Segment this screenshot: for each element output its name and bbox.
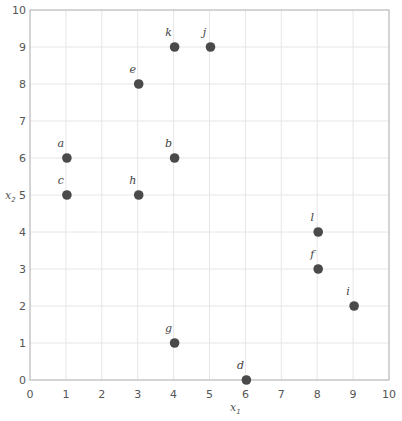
point-marker: [242, 375, 252, 385]
point-label: g: [165, 322, 172, 335]
point-label: k: [165, 26, 172, 39]
x-axis-ticks: 012345678910: [27, 388, 397, 401]
x-tick-label: 10: [382, 388, 396, 401]
point-label: j: [200, 26, 207, 39]
data-point: g: [165, 322, 179, 348]
data-point: f: [309, 248, 323, 274]
y-tick-label: 0: [19, 374, 26, 387]
y-tick-label: 8: [19, 78, 26, 91]
point-label: l: [310, 211, 314, 224]
x-tick-label: 4: [170, 388, 177, 401]
point-label: c: [58, 174, 64, 187]
y-tick-label: 1: [19, 337, 26, 350]
point-label: d: [237, 359, 244, 372]
point-marker: [206, 42, 216, 52]
x-tick-label: 3: [134, 388, 141, 401]
data-point: a: [58, 137, 72, 163]
point-label: h: [129, 174, 136, 187]
data-point: d: [237, 359, 251, 385]
y-tick-label: 3: [19, 263, 26, 276]
point-marker: [62, 153, 72, 163]
x-tick-label: 1: [62, 388, 69, 401]
x-tick-label: 2: [98, 388, 105, 401]
y-tick-label: 10: [12, 4, 26, 17]
point-marker: [170, 42, 180, 52]
point-label: b: [165, 137, 172, 150]
point-label: a: [58, 137, 65, 150]
data-point: c: [58, 174, 72, 200]
data-point: k: [165, 26, 179, 52]
x-axis-label: x1: [230, 401, 241, 416]
point-marker: [134, 79, 144, 89]
x-tick-label: 9: [350, 388, 357, 401]
point-label: f: [309, 248, 316, 261]
point-marker: [313, 264, 323, 274]
data-point: h: [129, 174, 143, 200]
y-axis-label: x2: [5, 189, 16, 204]
data-point: e: [129, 63, 143, 89]
x-tick-label: 5: [206, 388, 213, 401]
y-tick-label: 2: [19, 300, 26, 313]
x-tick-label: 8: [314, 388, 321, 401]
point-marker: [170, 153, 180, 163]
y-tick-label: 6: [19, 152, 26, 165]
data-points: abcdefghijkl: [58, 26, 359, 385]
point-label: i: [346, 285, 350, 298]
x-tick-label: 7: [278, 388, 285, 401]
point-label: e: [129, 63, 136, 76]
x-tick-label: 0: [27, 388, 34, 401]
x-tick-label: 6: [242, 388, 249, 401]
y-tick-label: 4: [19, 226, 26, 239]
point-marker: [313, 227, 323, 237]
data-point: j: [200, 26, 216, 52]
point-marker: [62, 190, 72, 200]
y-tick-label: 7: [19, 115, 26, 128]
grid-lines: [30, 10, 389, 380]
y-tick-label: 9: [19, 41, 26, 54]
data-point: b: [165, 137, 179, 163]
point-marker: [170, 338, 180, 348]
point-marker: [134, 190, 144, 200]
point-marker: [349, 301, 359, 311]
y-tick-label: 5: [19, 189, 26, 202]
scatter-chart: 012345678910 012345678910 abcdefghijkl x…: [0, 0, 402, 421]
